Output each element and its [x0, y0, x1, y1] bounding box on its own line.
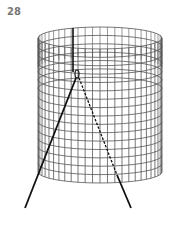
cylinder-mesh — [38, 27, 162, 183]
right-cone-line-hidden — [79, 78, 117, 175]
left-cone-line — [25, 78, 76, 208]
apex-loop — [75, 70, 79, 78]
mesh-cylinder-diagram — [0, 0, 180, 225]
